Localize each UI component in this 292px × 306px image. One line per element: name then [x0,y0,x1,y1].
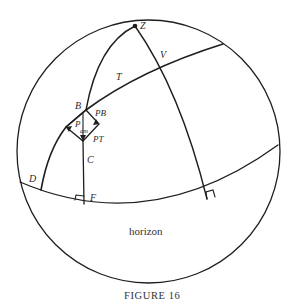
celestial-sphere-diagram [0,0,292,306]
sphere-outline [17,20,280,283]
label-v: V [160,50,166,60]
meridian-zb [86,26,135,110]
horizon-label: horizon [129,226,163,237]
label-c: C [87,155,94,165]
vertical-cf [83,141,84,204]
label-t: T [116,72,122,82]
arrowhead-pb [93,119,99,125]
label-z: Z [140,21,146,31]
label-pam-subscript: am [80,126,88,136]
label-d: D [29,174,36,184]
label-f: F [90,193,96,203]
right-angle-mark-right [206,190,215,199]
meridian-zv [135,26,207,199]
great-circle-dbtv [41,44,223,190]
horizon-line [20,145,278,203]
label-b: B [75,101,81,111]
zenith-dot [133,24,138,29]
figure-caption: FIGURE 16 [124,290,180,301]
label-pb: PB [95,108,106,118]
label-pt: PT [93,134,104,144]
